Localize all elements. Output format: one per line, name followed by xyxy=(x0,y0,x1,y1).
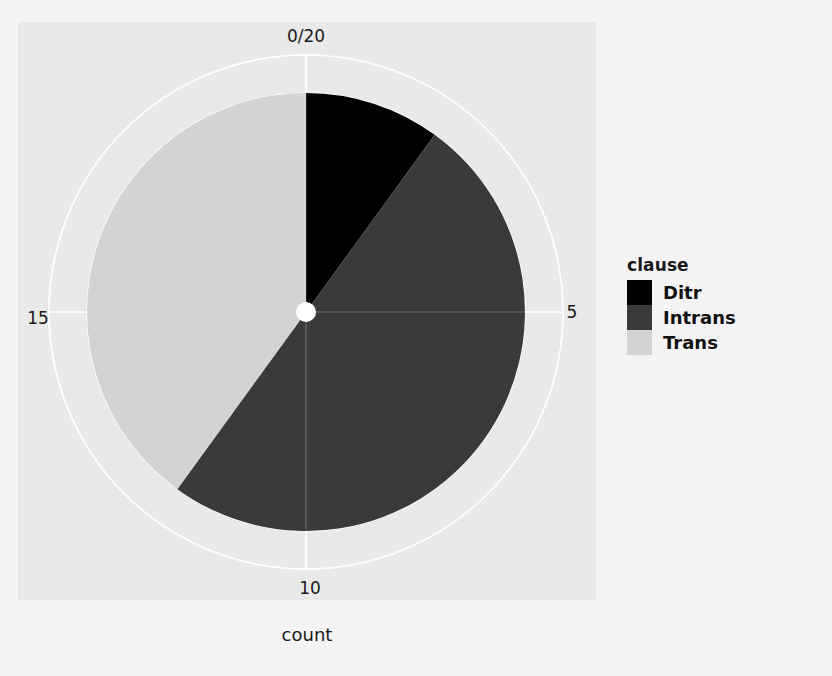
legend-label-ditr: Ditr xyxy=(663,282,702,303)
center-dot xyxy=(296,302,316,322)
legend-label-intrans: Intrans xyxy=(663,307,736,328)
legend-item-ditr[interactable]: Ditr xyxy=(627,280,797,305)
legend: clause DitrIntransTrans xyxy=(627,255,797,355)
axis-tick-left: 15 xyxy=(27,308,49,328)
legend-item-trans[interactable]: Trans xyxy=(627,330,797,355)
legend-swatch-intrans xyxy=(627,305,652,330)
legend-entries: DitrIntransTrans xyxy=(627,280,797,355)
center-dot-circle xyxy=(296,302,316,322)
axis-tick-top: 0/20 xyxy=(287,26,325,46)
legend-swatch-ditr xyxy=(627,280,652,305)
axis-title: count xyxy=(282,624,333,645)
legend-label-trans: Trans xyxy=(663,332,718,353)
legend-title: clause xyxy=(627,255,797,275)
axis-tick-right: 5 xyxy=(567,302,578,322)
legend-swatch-trans xyxy=(627,330,652,355)
legend-item-intrans[interactable]: Intrans xyxy=(627,305,797,330)
axis-tick-bottom: 10 xyxy=(299,578,321,598)
chart-figure: 0/20 5 10 15 count clause DitrIntransTra… xyxy=(0,0,832,676)
